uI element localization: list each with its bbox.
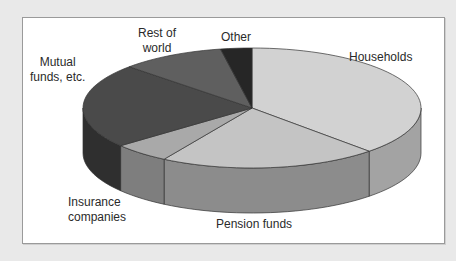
label-rest-line2: world	[138, 41, 176, 56]
label-mutual-line2: funds, etc.	[30, 70, 85, 85]
label-pension-funds: Pension funds	[216, 217, 292, 232]
label-rest-line1: Rest of	[138, 26, 176, 41]
label-rest-of-world: Rest of world	[138, 26, 176, 56]
label-insurance-line1: Insurance	[68, 195, 126, 210]
label-households: Households	[349, 50, 412, 65]
label-other: Other	[221, 30, 251, 45]
label-mutual-funds: Mutual funds, etc.	[30, 55, 85, 85]
label-insurance-line2: companies	[68, 210, 126, 225]
label-mutual-line1: Mutual	[30, 55, 85, 70]
label-insurance-companies: Insurance companies	[68, 195, 126, 225]
